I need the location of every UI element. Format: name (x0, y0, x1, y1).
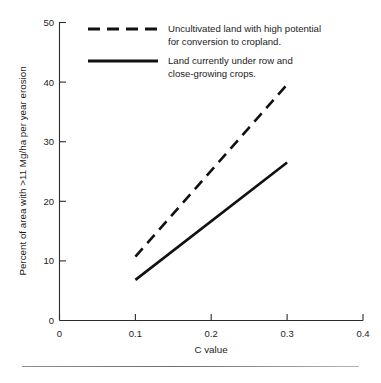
x-tick-label-0.1: 0.1 (129, 328, 142, 339)
y-axis-title: Percent of area with >11 Mg/ha per year … (17, 66, 28, 275)
legend-entry-1-line-1: Uncultivated land with high potential (168, 23, 321, 34)
x-axis-title: C value (194, 344, 228, 355)
legend-entry-2-line-1: Land currently under row and (168, 55, 293, 66)
bottom-divider-rule (22, 366, 359, 367)
x-tick-label-0.4: 0.4 (356, 328, 369, 339)
x-tick-label-0: 0 (57, 328, 62, 339)
series-line-row-crops (135, 163, 287, 280)
x-tick-label-0.2: 0.2 (205, 328, 218, 339)
series-line-uncultivated-land (135, 85, 287, 257)
y-tick-label-20: 20 (43, 196, 54, 207)
y-tick-label-40: 40 (43, 77, 54, 88)
y-tick-label-50: 50 (43, 17, 54, 28)
legend: Uncultivated land with high potential fo… (88, 23, 321, 79)
x-tick-label-0.3: 0.3 (280, 328, 293, 339)
y-tick-label-10: 10 (43, 255, 54, 266)
y-tick-label-30: 30 (43, 136, 54, 147)
y-tick-label-0: 0 (49, 315, 54, 326)
chart-figure: 50 40 30 20 10 0 0 0.1 0.2 0.3 0.4 C val… (0, 0, 381, 383)
legend-entry-2-line-2: close-growing crops. (168, 68, 256, 79)
erosion-line-chart: 50 40 30 20 10 0 0 0.1 0.2 0.3 0.4 C val… (0, 0, 381, 383)
legend-entry-1-line-2: for conversion to cropland. (168, 36, 281, 47)
